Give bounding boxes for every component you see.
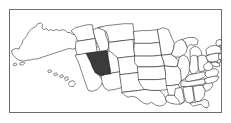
page-title: Map of the United States [0, 21, 1, 22]
state-south-dakota[interactable] [134, 42, 162, 56]
state-hawaii-maui[interactable] [64, 77, 68, 81]
state-hawaii-molokai[interactable] [60, 75, 64, 78]
alaska-aleutian-2 [13, 63, 17, 66]
state-hawaii-oahu[interactable] [54, 73, 58, 76]
state-alabama[interactable] [183, 87, 194, 104]
alaska-aleutian-1 [20, 62, 25, 65]
us-map-figure: Map of the United States [0, 0, 231, 123]
map-frame [9, 9, 222, 113]
state-north-dakota[interactable] [134, 30, 160, 44]
state-indiana[interactable] [189, 55, 198, 74]
state-texas[interactable] [122, 89, 167, 106]
state-vermont[interactable] [216, 39, 221, 46]
us-map-svg[interactable] [10, 10, 221, 112]
state-hawaii-kauai[interactable] [48, 70, 52, 73]
state-kansas[interactable] [138, 66, 167, 80]
state-nebraska[interactable] [135, 55, 165, 67]
state-new-jersey[interactable] [219, 53, 221, 60]
state-hawaii-big-island[interactable] [68, 81, 75, 87]
inset-hawaii[interactable] [48, 70, 76, 87]
